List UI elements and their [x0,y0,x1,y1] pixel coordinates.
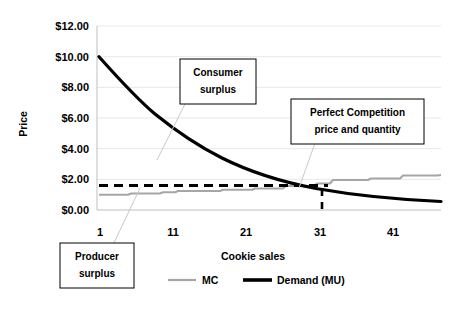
annotation-consumer-surplus[interactable]: Consumer surplus [180,59,256,104]
annotation-consumer-surplus-line2: surplus [200,84,237,95]
x-tick-label: 1 [97,226,103,238]
legend-label-mc: MC [202,274,219,286]
y-tick-label: $4.00 [61,143,89,155]
annotation-producer-surplus-line1: Producer [75,251,119,262]
y-tick-label: $12.00 [55,20,89,32]
x-tick-label: 21 [240,226,252,238]
y-axis-title: Price [17,111,29,137]
y-tick-label: $0.00 [61,204,89,216]
annotation-consumer-surplus-box[interactable] [180,59,256,104]
y-tick-label: $2.00 [61,173,89,185]
annotation-producer-surplus-box[interactable] [60,243,134,288]
annotation-producer-surplus[interactable]: Producer surplus [60,243,134,288]
x-tick-label: 11 [167,226,179,238]
x-axis-title: Cookie sales [221,250,285,262]
annotation-consumer-surplus-line1: Consumer [193,67,243,78]
y-tick-label: $6.00 [61,112,89,124]
y-tick-label: $8.00 [61,81,89,93]
x-tick-label: 41 [387,226,399,238]
annotation-producer-surplus-line2: surplus [79,268,116,279]
annotation-perfect-competition[interactable]: Perfect Competition price and quantity [291,99,424,144]
legend-label-demand: Demand (MU) [277,274,345,286]
annotation-perfect-competition-line2: price and quantity [314,124,401,135]
annotation-perfect-competition-line1: Perfect Competition [310,107,405,118]
x-tick-label: 31 [314,226,326,238]
economics-chart: $12.00 $10.00 $8.00 $6.00 $4.00 $2.00 $0… [0,0,451,310]
y-tick-label: $10.00 [55,51,89,63]
annotation-perfect-competition-box[interactable] [291,99,424,144]
